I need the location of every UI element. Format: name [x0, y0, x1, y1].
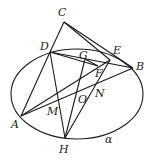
label-O: O — [78, 93, 87, 106]
label-G: G — [79, 49, 88, 62]
label-E: E — [112, 44, 121, 57]
label-C: C — [58, 6, 67, 19]
label-M: M — [46, 105, 59, 118]
label-A: A — [10, 118, 19, 131]
segments — [21, 22, 133, 138]
label-F: F — [94, 67, 103, 80]
label-B: B — [135, 60, 144, 73]
label-alpha: α — [105, 133, 113, 146]
figure-svg: C D E B G F A H M O N α — [0, 0, 155, 160]
segment-DF — [50, 52, 98, 66]
geometry-figure: C D E B G F A H M O N α — [0, 0, 155, 160]
segment-DH — [50, 52, 65, 138]
label-N: N — [94, 87, 105, 100]
segment-CD — [50, 22, 64, 52]
label-D: D — [39, 40, 49, 53]
label-H: H — [58, 143, 69, 156]
